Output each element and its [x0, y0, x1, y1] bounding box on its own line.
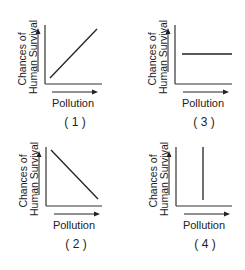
x-axis-label: Pollution: [43, 97, 103, 109]
chart-caption: ( 3 ): [184, 115, 224, 129]
y-axis-label: Chances ofHuman Survival: [148, 146, 170, 216]
chart-3-plot: [122, 0, 244, 135]
y-axis-label: Chances ofHuman Survival: [17, 24, 39, 94]
data-line: [51, 150, 98, 199]
chart-caption: ( 1 ): [55, 115, 95, 129]
x-axis-label: Pollution: [44, 219, 104, 231]
chart-panel-3: Chances ofHuman Survival Pollution ( 3 ): [122, 0, 244, 135]
x-axis-label: Pollution: [173, 97, 233, 109]
data-line: [50, 29, 97, 78]
chart-caption: ( 4 ): [185, 237, 225, 251]
chart-panel-2: Chances ofHuman Survival Pollution ( 2 ): [0, 135, 122, 270]
chart-panel-4: Chances ofHuman Survival Pollution ( 4 ): [122, 135, 244, 270]
chart-4-plot: [122, 135, 244, 270]
chart-caption: ( 2 ): [56, 237, 96, 251]
y-axis-label: Chances ofHuman Survival: [18, 146, 40, 216]
chart-panel-1: Chances ofHuman Survival Pollution ( 1 ): [0, 0, 122, 135]
y-axis-label: Chances ofHuman Survival: [147, 24, 169, 94]
x-axis-label: Pollution: [174, 219, 234, 231]
